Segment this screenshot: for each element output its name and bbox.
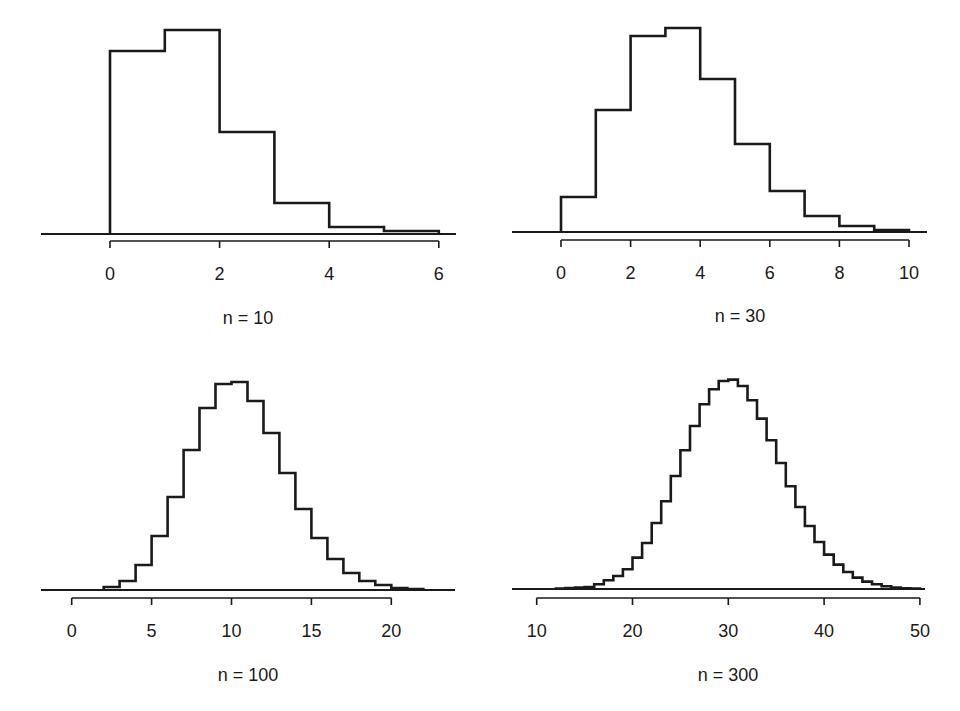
tick-label: 0 [105,264,115,284]
x-axis [72,598,392,605]
tick-labels: 0246 [105,264,444,284]
panel-n300: 1020304050 n = 300 [512,380,930,685]
tick-label: 6 [765,263,775,283]
panel-caption: n = 100 [218,665,279,685]
tick-label: 40 [814,621,834,641]
histogram-outline [110,30,439,234]
tick-label: 0 [556,263,566,283]
tick-labels: 0246810 [556,263,919,283]
histogram-outline [556,380,920,589]
panel-caption: n = 300 [698,665,759,685]
tick-label: 5 [147,621,157,641]
panel-n30: 0246810 n = 30 [512,28,927,326]
tick-label: 10 [221,621,241,641]
tick-label: 15 [301,621,321,641]
tick-label: 10 [527,621,547,641]
x-axis [537,598,920,605]
tick-label: 4 [324,264,334,284]
tick-labels: 1020304050 [527,621,930,641]
tick-label: 6 [434,264,444,284]
histogram-outline [104,382,424,590]
tick-label: 20 [381,621,401,641]
tick-label: 2 [626,263,636,283]
panel-caption: n = 30 [715,306,766,326]
tick-label: 4 [695,263,705,283]
histogram-grid: 0246 n = 10 0246810 n = 30 05101520 n = … [0,0,960,711]
x-axis [561,240,909,247]
x-axis [110,241,439,248]
panel-n100: 05101520 n = 100 [41,382,455,685]
tick-label: 0 [67,621,77,641]
tick-labels: 05101520 [67,621,402,641]
histogram-outline [561,28,909,232]
tick-label: 2 [215,264,225,284]
panel-n10: 0246 n = 10 [41,30,456,328]
tick-label: 30 [718,621,738,641]
tick-label: 10 [899,263,919,283]
figure: 0246 n = 10 0246810 n = 30 05101520 n = … [0,0,960,711]
tick-label: 8 [834,263,844,283]
tick-label: 50 [910,621,930,641]
panel-caption: n = 10 [223,308,274,328]
tick-label: 20 [622,621,642,641]
